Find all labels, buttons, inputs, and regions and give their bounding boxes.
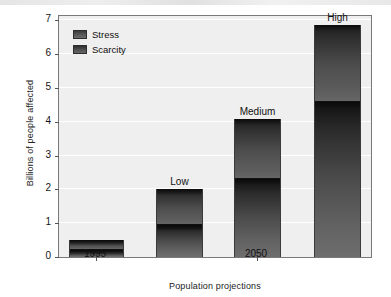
segment-top-shade <box>70 240 123 246</box>
scarcity-swatch-icon <box>73 45 87 54</box>
y-tick-mark <box>55 223 59 224</box>
bar-low[interactable] <box>156 189 203 257</box>
y-tick-label: 7 <box>45 13 51 24</box>
y-tick-mark <box>55 88 59 89</box>
bar-label-medium: Medium <box>229 106 286 117</box>
bar-label-low: Low <box>156 176 203 187</box>
y-tick-mark <box>55 189 59 190</box>
y-tick-label: 2 <box>45 182 51 193</box>
y-tick-label: 4 <box>45 115 51 126</box>
bar-label-high: High <box>312 12 363 23</box>
stress-swatch-icon <box>73 30 87 39</box>
legend-item-stress[interactable]: Stress <box>73 28 126 41</box>
y-tick-label: 3 <box>45 149 51 160</box>
legend-label: Scarcity <box>92 44 126 55</box>
y-tick-mark <box>55 54 59 55</box>
y-tick-mark <box>55 257 59 258</box>
segment-stress <box>157 189 202 225</box>
plot-area: 7 6 5 4 3 2 1 0 <box>58 15 372 258</box>
segment-top-shade <box>235 179 280 185</box>
y-tick-mark <box>55 20 59 21</box>
y-tick-label: 1 <box>45 216 51 227</box>
legend: Stress Scarcity <box>73 28 126 58</box>
segment-top-shade <box>157 189 202 195</box>
x-axis-title: Population projections <box>58 281 372 291</box>
y-axis-title: Billions of people affected <box>25 33 35 233</box>
y-tick-mark <box>55 122 59 123</box>
segment-top-shade <box>235 119 280 125</box>
legend-label: Stress <box>92 29 119 40</box>
legend-item-scarcity[interactable]: Scarcity <box>73 43 126 56</box>
segment-top-shade <box>315 25 360 31</box>
segment-top-shade <box>157 225 202 231</box>
bar-high[interactable] <box>314 25 361 257</box>
segment-scarcity <box>157 225 202 257</box>
y-tick-label: 5 <box>45 81 51 92</box>
segment-top-shade <box>315 102 360 108</box>
y-tick-label: 6 <box>45 47 51 58</box>
segment-scarcity <box>315 102 360 257</box>
bar-medium[interactable] <box>234 119 281 257</box>
segment-stress <box>315 25 360 102</box>
segment-scarcity <box>235 179 280 257</box>
x-tick-label-1995: 1995 <box>65 248 125 259</box>
chart-figure: Billions of people affected 7 6 5 4 <box>0 0 391 297</box>
y-tick-label: 0 <box>45 250 51 261</box>
y-tick-mark <box>55 156 59 157</box>
x-tick-label-2050: 2050 <box>226 248 286 259</box>
segment-stress <box>235 119 280 178</box>
